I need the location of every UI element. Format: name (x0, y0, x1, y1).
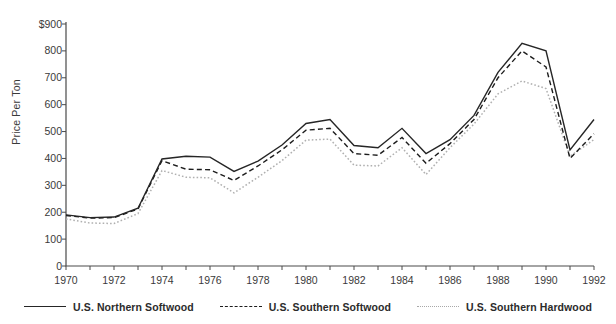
legend-label: U.S. Northern Softwood (73, 301, 194, 313)
x-tick-label: 1980 (294, 274, 317, 286)
legend-item[interactable]: U.S. Northern Softwood (24, 301, 194, 313)
series-line-dotted (66, 81, 594, 224)
x-tick-label: 1978 (246, 274, 269, 286)
x-tick-label: 1972 (102, 274, 125, 286)
series-line-solid (66, 43, 594, 217)
x-tick-label: 1988 (486, 274, 509, 286)
legend-item[interactable]: U.S. Southern Hardwood (417, 301, 592, 313)
x-tick-label: 1990 (534, 274, 557, 286)
legend-label: U.S. Southern Softwood (269, 301, 391, 313)
chart-legend: U.S. Northern SoftwoodU.S. Southern Soft… (0, 296, 616, 318)
x-tick-label: 1992 (582, 274, 605, 286)
x-tick-label: 1982 (342, 274, 365, 286)
x-tick-label: 1984 (390, 274, 413, 286)
x-tick-label: 1986 (438, 274, 461, 286)
x-tick-label: 1976 (198, 274, 221, 286)
x-tick-label: 1974 (150, 274, 173, 286)
legend-label: U.S. Southern Hardwood (466, 301, 592, 313)
chart-figure: Price Per Ton 0100200300400500600700800$… (0, 0, 616, 324)
legend-item[interactable]: U.S. Southern Softwood (220, 301, 391, 313)
x-tick-label: 1970 (54, 274, 77, 286)
